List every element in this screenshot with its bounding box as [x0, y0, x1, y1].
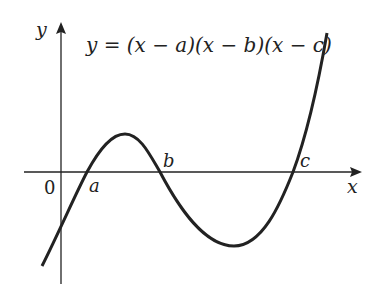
y-axis [56, 22, 66, 284]
x-axis-label: x [347, 175, 358, 197]
y-axis-label: y [35, 18, 47, 40]
equation-title: y = (x − a)(x − b)(x − c) [85, 33, 332, 57]
root-c-label: c [300, 150, 310, 171]
root-b-label: b [163, 150, 175, 171]
x-axis [24, 167, 362, 177]
cubic-curve [42, 33, 327, 266]
root-a-label: a [89, 175, 100, 196]
cubic-diagram: y x 0 a b c y = (x − a)(x − b)(x − c) [0, 0, 384, 286]
origin-label: 0 [44, 177, 55, 198]
